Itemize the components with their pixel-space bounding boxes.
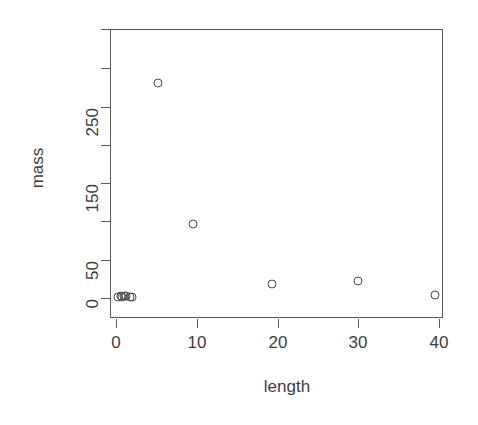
x-axis-tick-10: [197, 319, 198, 328]
y-axis-label-0: 0: [83, 299, 103, 308]
y-axis-title: mass: [28, 148, 48, 189]
y-axis-tick-200: [101, 145, 110, 146]
x-axis-tick-40: [439, 319, 440, 328]
x-axis-label-10: 10: [188, 333, 207, 353]
x-axis-tick-30: [358, 319, 359, 328]
scatter-plot-figure: 250 150 50 0 0 10 20 30 40 length mass: [0, 0, 478, 425]
y-axis-label-250: 250: [83, 108, 103, 136]
plot-frame: [110, 29, 443, 318]
x-axis-tick-0: [116, 319, 117, 328]
y-axis-tick-100: [101, 221, 110, 222]
x-axis-title: length: [264, 377, 310, 397]
x-axis-label-0: 0: [111, 333, 120, 353]
x-axis-label-30: 30: [349, 333, 368, 353]
x-axis-tick-20: [278, 319, 279, 328]
x-axis-label-20: 20: [269, 333, 288, 353]
y-axis-label-150: 150: [83, 184, 103, 212]
y-axis-label-50: 50: [83, 261, 103, 280]
y-axis-tick-300: [101, 29, 110, 30]
y-axis-tick-250-minor: [101, 68, 110, 69]
x-axis-label-40: 40: [430, 333, 449, 353]
